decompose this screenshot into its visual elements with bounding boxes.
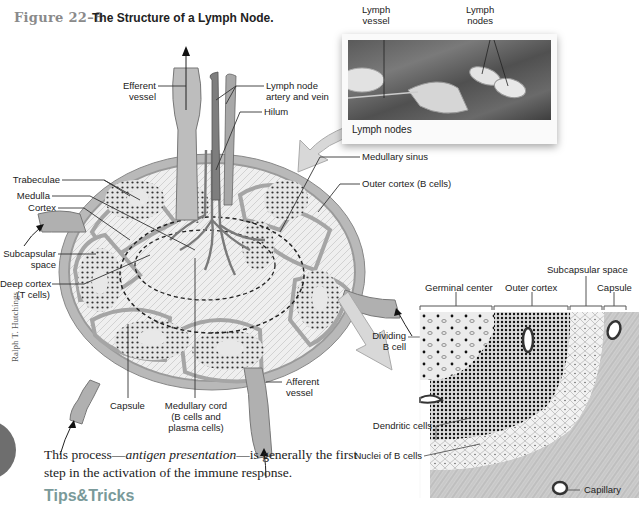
photo-credit: Ralph T. Hutchings [10,292,20,362]
label-medulla: Medulla [0,190,50,201]
header-subcapsular-space: Subcapsular space [547,264,628,275]
lymph-nodes-photo [348,40,551,120]
label-capillary: Capillary [584,484,621,495]
header-outer-cortex: Outer cortex [505,282,557,293]
label-medullary-sinus: Medullary sinus [362,151,428,162]
tissue-detail-panel [408,276,639,498]
label-artery-vein: Lymph nodeartery and vein [266,80,329,102]
label-lymph-vessel: Lymphvessel [362,4,390,26]
label-hilum: Hilum [264,106,288,117]
body-paragraph: This process—antigen presentation—is gen… [44,446,374,482]
label-outer-cortex-b-cells: Outer cortex (B cells) [362,178,451,189]
label-trabeculae: Trabeculae [0,174,60,185]
header-capsule: Capsule [597,282,632,293]
label-lymph-nodes: Lymphnodes [466,4,494,26]
tips-heading: Tips&Tricks [44,487,134,505]
label-efferent-vessel: Efferentvessel [112,80,156,102]
label-dendritic-cells: Dendritic cells [340,420,432,431]
label-subcapsular-space: Subcapsularspace [0,248,56,270]
label-cortex: Cortex [0,202,56,213]
photo-caption: Lymph nodes [352,124,412,135]
label-afferent-vessel: Afferentvessel [286,376,319,398]
efferent-vessel [173,46,201,220]
label-medullary-cord: Medullary cord(B cells andplasma cells) [164,400,228,433]
label-dividing-b-cell: DividingB cell [366,330,406,352]
photo-inset: Lymph nodes [342,34,557,144]
label-deep-cortex: Deep cortex(T cells) [0,278,50,300]
label-capsule-main: Capsule [110,400,145,411]
header-germinal-center: Germinal center [425,282,493,293]
